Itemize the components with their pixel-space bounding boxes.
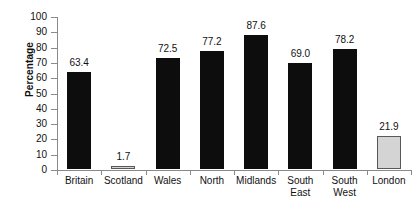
y-tick-label-60: 60	[21, 71, 47, 84]
y-tick-label-40: 40	[21, 102, 47, 115]
y-tick-80: 80	[51, 48, 57, 49]
bar-group: 78.2	[333, 16, 357, 169]
x-label-line: London	[359, 175, 419, 187]
bar-group: 87.6	[244, 16, 268, 169]
bar-south-west[interactable]	[333, 49, 357, 169]
y-tick-label-0: 0	[21, 163, 47, 176]
x-label-london: London	[359, 175, 419, 187]
y-tick-30: 30	[51, 124, 57, 125]
y-tick-label-20: 20	[21, 132, 47, 145]
y-axis-line	[57, 17, 58, 171]
bar-group: 72.5	[156, 16, 180, 169]
y-tick-90: 90	[51, 32, 57, 33]
bar-scotland[interactable]	[111, 166, 135, 169]
bar-london[interactable]	[377, 136, 401, 170]
y-tick-label-30: 30	[21, 117, 47, 130]
bar-group: 63.4	[67, 16, 91, 169]
bar-group: 1.7	[111, 16, 135, 169]
y-tick-label-100: 100	[21, 10, 47, 23]
y-tick-100: 100	[51, 17, 57, 18]
bar-value-label: 87.6	[222, 20, 290, 32]
y-tick-20: 20	[51, 139, 57, 140]
bar-value-label: 21.9	[355, 121, 419, 133]
bar-south-east[interactable]	[288, 63, 312, 169]
bar-value-label: 63.4	[45, 57, 113, 69]
y-tick-label-50: 50	[21, 87, 47, 100]
bar-chart-figure: Percentage 0102030405060708090100 63.41.…	[0, 0, 419, 217]
bar-group: 77.2	[200, 16, 224, 169]
y-tick-label-90: 90	[21, 25, 47, 38]
bar-group: 69.0	[288, 16, 312, 169]
y-tick-label-70: 70	[21, 56, 47, 69]
y-tick-60: 60	[51, 78, 57, 79]
x-label-line: West	[315, 187, 375, 199]
y-tick-40: 40	[51, 109, 57, 110]
bar-value-label: 69.0	[266, 48, 334, 60]
bar-wales[interactable]	[156, 58, 180, 169]
bar-britain[interactable]	[67, 72, 91, 169]
y-tick-label-80: 80	[21, 41, 47, 54]
y-tick-label-10: 10	[21, 148, 47, 161]
bar-midlands[interactable]	[244, 35, 268, 169]
bar-north[interactable]	[200, 51, 224, 169]
y-tick-10: 10	[51, 155, 57, 156]
bar-value-label: 78.2	[311, 34, 379, 46]
plot-area: 0102030405060708090100 63.41.772.577.287…	[57, 17, 411, 170]
y-tick-50: 50	[51, 94, 57, 95]
bar-value-label: 1.7	[89, 151, 157, 163]
bar-group: 21.9	[377, 16, 401, 169]
bar-value-label: 77.2	[178, 36, 246, 48]
